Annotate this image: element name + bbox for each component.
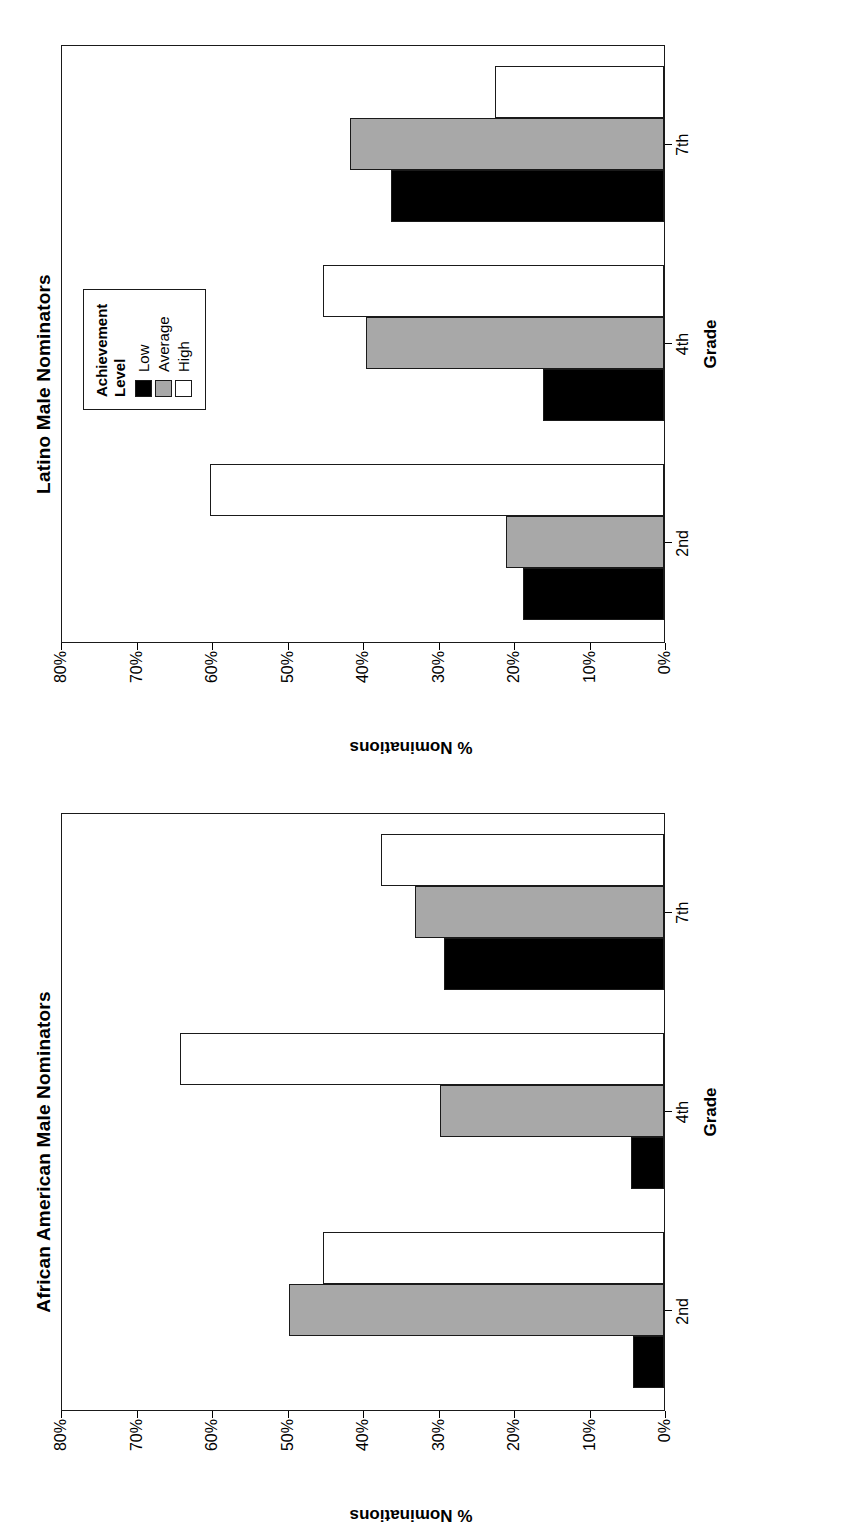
- legend-title-line2: Level: [111, 304, 129, 397]
- y-axis-label: % Nominations: [311, 737, 511, 757]
- bar-latino-7th-high[interactable]: [495, 67, 664, 119]
- chart-body-african-american: % Nominations 80% 70% 60% 50% 40% 30% 20…: [61, 807, 761, 1497]
- x-tick-2nd: 2nd: [665, 444, 699, 643]
- legend-item-average[interactable]: Average: [155, 304, 172, 397]
- y-tick-80: 80%: [52, 651, 70, 683]
- bar-latino-2nd-average[interactable]: [506, 517, 664, 569]
- x-tick-4th-label: 4th: [674, 333, 691, 355]
- y-tickmark-0: [665, 1411, 666, 1418]
- bar-group-7th: [61, 813, 664, 1012]
- bar-group-7th: [61, 45, 664, 244]
- x-tickmark-2nd: [665, 542, 672, 543]
- y-tickmark-20: [514, 1411, 515, 1418]
- bar-african-7th-average[interactable]: [415, 887, 664, 939]
- x-tick-2nd-label: 2nd: [674, 530, 691, 557]
- y-axis-ticks: 80% 70% 60% 50% 40% 30% 20% 10% 0%: [61, 643, 665, 695]
- plot-area-african-american: [61, 813, 665, 1411]
- x-axis-ticks: 2nd 4th 7th: [665, 45, 699, 643]
- x-tick-2nd: 2nd: [665, 1212, 699, 1411]
- bar-latino-4th-low[interactable]: [543, 370, 664, 422]
- chart-title-african-american: African American Male Nominators: [31, 807, 57, 1497]
- legend-swatch-low-icon: [135, 380, 152, 397]
- bar-latino-4th-average[interactable]: [366, 318, 664, 370]
- y-tick-60: 60%: [203, 651, 221, 683]
- bar-latino-7th-low[interactable]: [391, 171, 664, 223]
- y-tickmark-30: [439, 643, 440, 650]
- x-tick-4th-label: 4th: [674, 1101, 691, 1123]
- chart-rotation-wrapper: African American Male Nominators % Nomin…: [31, 807, 821, 1497]
- x-axis-ticks: 2nd 4th 7th: [665, 813, 699, 1411]
- y-tick-60: 60%: [203, 1419, 221, 1451]
- x-tick-7th: 7th: [665, 45, 699, 244]
- x-tickmark-4th: [665, 343, 672, 344]
- bar-african-2nd-high[interactable]: [323, 1233, 664, 1285]
- bar-african-7th-low[interactable]: [444, 939, 664, 991]
- bar-group-2nd: [61, 1211, 664, 1410]
- bar-african-4th-low[interactable]: [631, 1138, 664, 1190]
- y-tickmark-20: [514, 643, 515, 650]
- y-tickmark-10: [590, 643, 591, 650]
- x-tick-7th-label: 7th: [674, 902, 691, 924]
- plot-area-latino: Achievement Level Low Average High: [61, 45, 665, 643]
- y-tickmark-10: [590, 1411, 591, 1418]
- chart-title-latino: Latino Male Nominators: [31, 39, 57, 729]
- y-tickmark-60: [212, 643, 213, 650]
- bar-african-4th-high[interactable]: [180, 1034, 664, 1086]
- y-tickmark-50: [288, 1411, 289, 1418]
- legend-item-low[interactable]: Low: [135, 304, 152, 397]
- y-tick-20: 20%: [505, 651, 523, 683]
- y-tickmark-60: [212, 1411, 213, 1418]
- legend-swatch-average-icon: [155, 380, 172, 397]
- chart-rotation-wrapper: Latino Male Nominators % Nominations 80%…: [31, 39, 821, 729]
- y-tick-0: 0%: [656, 651, 674, 674]
- y-tick-30: 30%: [430, 1419, 448, 1451]
- chart-panel-latino: Latino Male Nominators % Nominations 80%…: [0, 0, 852, 768]
- legend-label-average: Average: [155, 316, 172, 372]
- y-tickmark-80: [61, 1411, 62, 1418]
- bar-african-4th-average[interactable]: [440, 1086, 664, 1138]
- x-tickmark-4th: [665, 1111, 672, 1112]
- y-tick-10: 10%: [581, 651, 599, 683]
- legend-label-high: High: [175, 341, 192, 372]
- x-tick-7th-label: 7th: [674, 134, 691, 156]
- bar-latino-4th-high[interactable]: [323, 266, 664, 318]
- y-tick-10: 10%: [581, 1419, 599, 1451]
- y-tick-0: 0%: [656, 1419, 674, 1442]
- y-tickmark-40: [363, 643, 364, 650]
- x-tickmark-7th: [665, 144, 672, 145]
- y-tick-40: 40%: [354, 651, 372, 683]
- x-tick-4th: 4th: [665, 244, 699, 443]
- bar-african-2nd-average[interactable]: [289, 1285, 664, 1337]
- chart-body-latino: % Nominations 80% 70% 60% 50% 40% 30% 20…: [61, 39, 761, 729]
- y-tick-50: 50%: [279, 651, 297, 683]
- y-tickmark-70: [137, 643, 138, 650]
- y-tick-20: 20%: [505, 1419, 523, 1451]
- y-tickmark-30: [439, 1411, 440, 1418]
- x-tickmark-2nd: [665, 1310, 672, 1311]
- legend-title: Achievement Level: [93, 304, 128, 397]
- legend-item-high[interactable]: High: [175, 304, 192, 397]
- bar-latino-2nd-high[interactable]: [210, 465, 665, 517]
- legend-swatch-high-icon: [175, 380, 192, 397]
- y-axis-ticks: 80% 70% 60% 50% 40% 30% 20% 10% 0%: [61, 1411, 665, 1463]
- y-axis-label: % Nominations: [311, 1505, 511, 1525]
- bar-latino-2nd-low[interactable]: [523, 569, 664, 621]
- legend: Achievement Level Low Average High: [83, 289, 206, 410]
- x-tickmark-7th: [665, 912, 672, 913]
- y-tickmark-50: [288, 643, 289, 650]
- y-tick-30: 30%: [430, 651, 448, 683]
- legend-label-low: Low: [135, 344, 152, 372]
- bar-group-2nd: [61, 443, 664, 642]
- bar-african-7th-high[interactable]: [381, 835, 664, 887]
- bar-group-4th: [61, 1012, 664, 1211]
- y-tick-70: 70%: [128, 1419, 146, 1451]
- y-tickmark-80: [61, 643, 62, 650]
- y-tickmark-0: [665, 643, 666, 650]
- x-axis-label: Grade: [701, 45, 721, 643]
- y-tickmark-70: [137, 1411, 138, 1418]
- y-tick-40: 40%: [354, 1419, 372, 1451]
- bar-african-2nd-low[interactable]: [633, 1337, 664, 1389]
- bar-latino-7th-average[interactable]: [350, 119, 664, 171]
- y-tick-80: 80%: [52, 1419, 70, 1451]
- x-axis-label: Grade: [701, 813, 721, 1411]
